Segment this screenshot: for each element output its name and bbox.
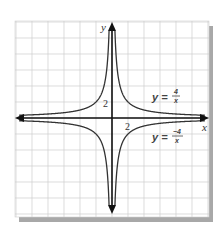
equation-label-positive: y = 4 x <box>151 88 180 104</box>
eq1-prefix: y = <box>151 91 168 103</box>
x-tick-label: 2 <box>125 121 130 132</box>
eq2-prefix: y = <box>151 131 168 143</box>
hyperbola-graph: y x 2 2 y = 4 x y = −4 x <box>0 0 221 233</box>
y-axis-label: y <box>100 21 106 33</box>
eq1-numerator: 4 <box>173 88 178 95</box>
y-tick-label: 2 <box>103 98 108 109</box>
eq2-numerator: −4 <box>173 128 181 135</box>
x-axis-label: x <box>201 121 207 133</box>
equation-label-negative: y = −4 x <box>151 128 183 144</box>
